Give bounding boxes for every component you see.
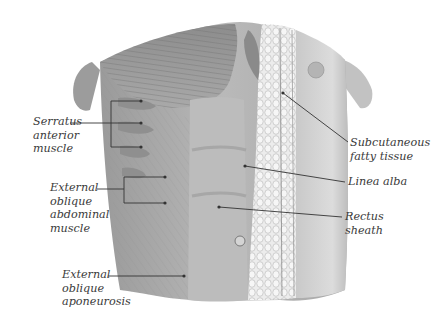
label-external-oblique-aponeurosis: External oblique aponeurosis xyxy=(62,268,131,309)
label-serratus-anterior-muscle: Serratus anterior muscle xyxy=(33,115,82,156)
navel xyxy=(235,236,245,246)
nipple xyxy=(308,62,324,78)
label-external-oblique-abdominal-muscle: External oblique abdominal muscle xyxy=(50,181,109,235)
label-linea-alba: Linea alba xyxy=(348,175,407,189)
label-subcutaneous-fatty-tissue: Subcutaneous fatty tissue xyxy=(350,136,430,163)
left-arm xyxy=(73,62,100,111)
rectus-sheath-shape xyxy=(188,97,248,302)
label-rectus-sheath: Rectus sheath xyxy=(345,210,384,237)
